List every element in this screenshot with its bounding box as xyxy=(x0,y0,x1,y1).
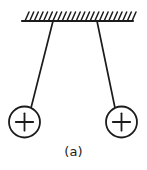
right-string xyxy=(97,21,115,108)
left-charge xyxy=(9,107,40,138)
left-string xyxy=(31,21,53,108)
figure-caption: (a) xyxy=(0,143,147,160)
right-charge xyxy=(106,107,137,138)
figure-container: (a) xyxy=(0,0,147,170)
ceiling-group xyxy=(22,12,136,21)
ceiling-hatch-marks xyxy=(25,12,136,21)
strings-group xyxy=(31,21,115,108)
